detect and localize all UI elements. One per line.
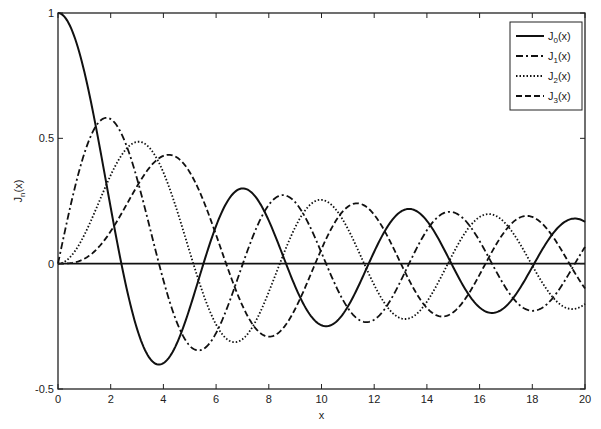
y-axis-label-suffix: (x) bbox=[12, 180, 24, 193]
legend: J0(x)J1(x)J2(x)J3(x) bbox=[510, 22, 582, 110]
y-tick-label: -0.5 bbox=[35, 383, 54, 395]
y-tick-label: 0.5 bbox=[39, 132, 54, 144]
x-tick-label: 10 bbox=[315, 393, 327, 405]
y-tick-label: 0 bbox=[48, 258, 54, 270]
x-tick-label: 2 bbox=[108, 393, 114, 405]
x-tick-label: 14 bbox=[421, 393, 433, 405]
x-tick-label: 12 bbox=[368, 393, 380, 405]
y-tick-label: 1 bbox=[48, 7, 54, 19]
plot-area: 02468101214161820 -0.500.51 bbox=[35, 7, 591, 405]
bessel-chart: 02468101214161820 -0.500.51 x Jn(x) J0(x… bbox=[0, 0, 601, 429]
x-tick-label: 0 bbox=[55, 393, 61, 405]
x-tick-label: 18 bbox=[526, 393, 538, 405]
axes-frame bbox=[58, 13, 585, 389]
x-tick-label: 16 bbox=[473, 393, 485, 405]
x-tick-label: 20 bbox=[579, 393, 591, 405]
x-tick-label: 6 bbox=[213, 393, 219, 405]
x-axis-label: x bbox=[319, 409, 325, 421]
x-tick-label: 4 bbox=[160, 393, 166, 405]
x-tick-label: 8 bbox=[266, 393, 272, 405]
y-axis-label: Jn(x) bbox=[12, 180, 27, 203]
